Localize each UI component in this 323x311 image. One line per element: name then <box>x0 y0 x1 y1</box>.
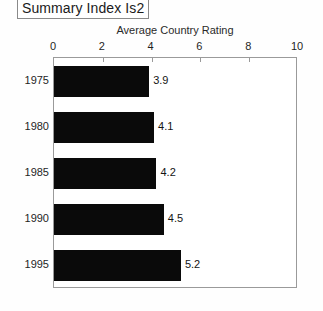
x-tick-label-6: 6 <box>196 40 202 52</box>
bar-1980 <box>54 112 154 143</box>
value-label-1985: 4.2 <box>160 157 175 188</box>
value-label-1975: 3.9 <box>153 65 168 96</box>
x-tick-label-2: 2 <box>99 40 105 52</box>
category-label-1990: 1990 <box>5 203 49 234</box>
x-tick-mark-4 <box>152 58 153 62</box>
bar-1995 <box>54 250 181 281</box>
category-label-1980: 1980 <box>5 111 49 142</box>
value-label-1990: 4.5 <box>168 203 183 234</box>
x-tick-mark-2 <box>103 58 104 62</box>
bar-1985 <box>54 158 156 189</box>
category-label-1985: 1985 <box>5 157 49 188</box>
category-label-1995: 1995 <box>5 249 49 280</box>
x-tick-mark-6 <box>200 58 201 62</box>
value-label-1995: 5.2 <box>185 249 200 280</box>
value-label-1980: 4.1 <box>158 111 173 142</box>
bar-1975 <box>54 66 149 97</box>
bar-1990 <box>54 204 164 235</box>
y-axis-category-labels: 19751980198519901995 <box>0 57 49 288</box>
summary-index-title-label: Summary Index Is2 <box>22 0 144 16</box>
x-tick-label-10: 10 <box>291 40 303 52</box>
x-tick-mark-8 <box>249 58 250 62</box>
summary-index-title-box: Summary Index Is2 <box>17 0 149 19</box>
x-axis-title: Average Country Rating <box>53 24 297 36</box>
category-label-1975: 1975 <box>5 65 49 96</box>
x-tick-label-4: 4 <box>148 40 154 52</box>
x-tick-label-8: 8 <box>245 40 251 52</box>
chart-screenshot: Summary Index Is2 Average Country Rating… <box>0 0 323 311</box>
x-tick-label-0: 0 <box>50 40 56 52</box>
